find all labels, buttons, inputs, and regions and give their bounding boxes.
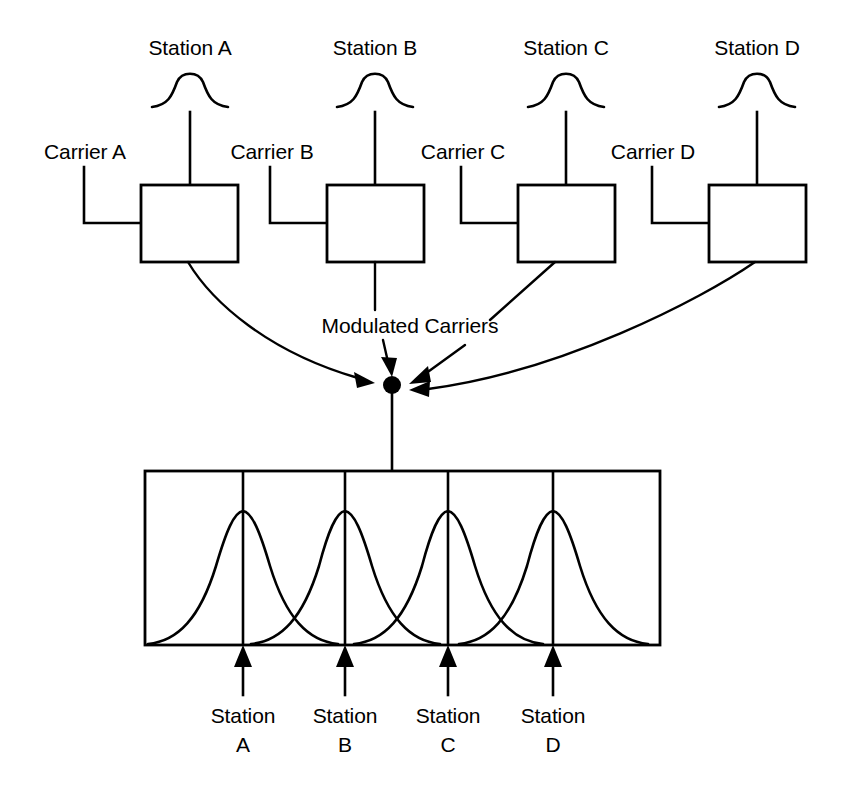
carrier-feed-line-b	[270, 167, 328, 223]
bottom-station-label-d-line2: D	[545, 733, 560, 756]
diagram-canvas: Station A Station B Station C Station D …	[0, 0, 843, 801]
top-signal-curves	[152, 74, 795, 107]
fdm-diagram: Station A Station B Station C Station D …	[0, 0, 843, 801]
carrier-label-a: Carrier A	[44, 140, 126, 163]
modulated-carriers-label: Modulated Carriers	[322, 314, 499, 337]
signal-curve-d	[719, 74, 795, 107]
carrier-feed-line-c	[461, 167, 519, 223]
spectrum-frame	[145, 471, 660, 645]
junction-node	[383, 376, 401, 472]
bottom-station-label-a-line1: Station	[211, 704, 276, 727]
arrowhead-c	[409, 366, 431, 384]
carrier-labels: Carrier A Carrier B Carrier C Carrier D	[44, 140, 695, 163]
modulator-box-a[interactable]	[141, 185, 238, 262]
modulator-box-b[interactable]	[327, 185, 424, 262]
bottom-arrowhead-c	[439, 645, 457, 667]
top-station-label-c: Station C	[523, 36, 608, 59]
bottom-station-label-a-line2: A	[236, 733, 250, 756]
bottom-station-label-b-line2: B	[338, 733, 352, 756]
carrier-feed-line-a	[84, 167, 142, 223]
arrowhead-a	[354, 372, 375, 388]
top-station-label-d: Station D	[714, 36, 799, 59]
bottom-arrowhead-a	[234, 645, 252, 667]
modulated-path-c-lower	[425, 345, 465, 374]
bottom-arrowhead-d	[544, 645, 562, 667]
signal-curve-b	[337, 74, 413, 107]
spectrum-box	[145, 471, 660, 645]
modulator-box-d[interactable]	[709, 185, 806, 262]
bottom-arrowhead-b	[336, 645, 354, 667]
bottom-station-label-c-line1: Station	[416, 704, 481, 727]
bottom-station-label-d-line1: Station	[521, 704, 586, 727]
top-station-labels: Station A Station B Station C Station D	[148, 36, 799, 59]
top-station-label-a: Station A	[148, 36, 231, 59]
modulator-box-c[interactable]	[518, 185, 615, 262]
bottom-station-labels: Station A Station B Station C Station D	[211, 704, 586, 756]
modulated-path-c	[490, 262, 555, 320]
carrier-label-b: Carrier B	[230, 140, 313, 163]
signal-curve-c	[528, 74, 604, 107]
bottom-pointer-arrows	[234, 645, 562, 695]
carrier-feed-line-d	[652, 167, 710, 223]
carrier-label-c: Carrier C	[421, 140, 505, 163]
top-station-label-b: Station B	[333, 36, 417, 59]
bottom-station-label-b-line1: Station	[313, 704, 378, 727]
signal-curve-a	[152, 74, 228, 107]
carrier-label-d: Carrier D	[611, 140, 695, 163]
arrowhead-b	[381, 357, 397, 377]
bottom-station-label-c-line2: C	[440, 733, 455, 756]
